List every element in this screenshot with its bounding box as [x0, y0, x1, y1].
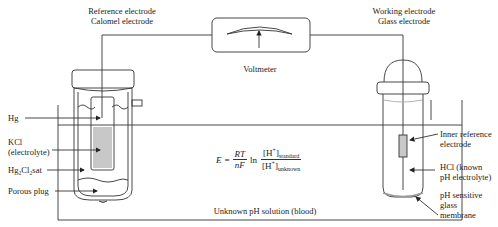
label-line: pH electrolyte)	[440, 172, 491, 182]
porous-plug-label: Porous plug	[8, 186, 49, 196]
label-line: Working electrode	[354, 6, 454, 16]
h-bracket: [H	[263, 148, 273, 158]
voltmeter-label: Voltmeter	[235, 64, 285, 74]
label-line: HCl (known	[440, 162, 491, 172]
label-line: membrane	[440, 210, 482, 220]
label-line: KCl	[8, 137, 50, 147]
hg2cl2-label: Hg₂Cl₂sat	[8, 165, 42, 175]
kcl-fill	[93, 127, 112, 168]
inner-reference-label: Inner reference electrode	[440, 129, 492, 149]
working-electrode-label: Working electrode Glass electrode	[354, 6, 454, 26]
membrane-label: pH sensitive glass membrane	[440, 190, 482, 220]
fraction-denominator: nF	[233, 160, 247, 170]
label-line: pH sensitive	[440, 190, 482, 200]
standard-concentration: [H+]standard	[261, 147, 301, 160]
kcl-label: KCl (electrolyte)	[8, 137, 50, 157]
formula-lhs: E	[216, 155, 222, 165]
hg-label: Hg	[8, 113, 18, 123]
electrochemical-cell-diagram	[0, 0, 498, 227]
side-port	[132, 100, 142, 106]
unknown-subscript: unknown	[278, 166, 300, 172]
formula-equals: =	[225, 155, 230, 165]
hcl-label: HCl (known pH electrolyte)	[440, 162, 491, 182]
rt-nf-fraction: RT nF	[233, 149, 248, 170]
concentration-fraction: [H+]standard [H+]unknown	[260, 147, 302, 172]
inner-reference-fill	[399, 135, 407, 157]
h-bracket: [H	[262, 161, 272, 171]
label-line: Inner reference	[440, 129, 492, 139]
label-line: Calomel electrode	[72, 16, 172, 26]
reference-electrode-label: Reference electrode Calomel electrode	[72, 6, 172, 26]
label-line: (electrolyte)	[8, 147, 50, 157]
label-line: glass	[440, 200, 482, 210]
label-line: electrode	[440, 139, 492, 149]
label-line: Glass electrode	[354, 16, 454, 26]
standard-subscript: standard	[279, 153, 299, 159]
voltmeter-box	[212, 18, 310, 52]
fraction-numerator: RT	[233, 149, 248, 160]
unknown-concentration: [H+]unknown	[260, 160, 302, 172]
nernst-equation: E = RT nF ln [H+]standard [H+]unknown	[216, 147, 302, 172]
label-line: Reference electrode	[72, 6, 172, 16]
formula-ln: ln	[250, 155, 257, 165]
calomel-cap	[72, 70, 134, 88]
solution-label: Unknown pH solution (blood)	[200, 206, 330, 216]
